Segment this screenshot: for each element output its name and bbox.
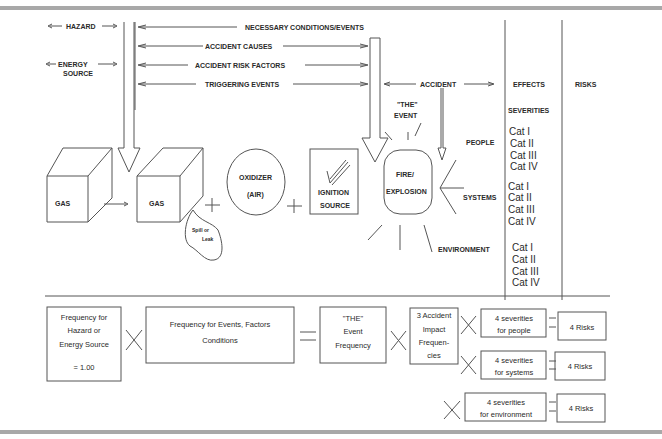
people-cat-1: Cat I [509, 126, 530, 137]
ignition-label-1: IGNITION [318, 189, 349, 196]
events-frequency-box [146, 307, 294, 363]
causes-label: ACCIDENT CAUSES [205, 43, 273, 50]
hazard-freq-line-3: Energy Source [59, 340, 109, 349]
sev-systems-line-1: 4 severities [495, 356, 533, 365]
sev-env-line-2: for environment [480, 410, 533, 419]
impact-freq-line-2: Impact [423, 325, 446, 334]
oxidizer-label-2: (AIR) [247, 191, 264, 199]
ignition-label-2: SOURCE [320, 202, 350, 209]
equals-environment [549, 402, 556, 411]
environment-label: ENVIRONMENT [438, 246, 490, 253]
multiply-sign-5 [444, 401, 460, 419]
energy-label-1: ENERGY [58, 61, 88, 68]
hazard-freq-line-2: Hazard or [68, 326, 101, 335]
bottom-border [0, 430, 662, 434]
the-event-label-2: EVENT [394, 112, 418, 119]
multiply-sign-1 [126, 330, 142, 350]
gas2-label: GAS [149, 200, 165, 207]
hazard-down-arrow [118, 22, 140, 172]
sev-env-line-1: 4 severities [487, 398, 525, 407]
events-freq-line-2: Conditions [202, 336, 238, 345]
effect-arrows [440, 160, 464, 214]
environment-cat-3: Cat III [512, 266, 539, 277]
people-cat-2: Cat II [510, 138, 534, 149]
systems-cat-1: Cat I [508, 181, 529, 192]
spill-label-2: Leak [202, 236, 214, 242]
triggering-right-arrow [293, 82, 368, 86]
hazard-left-arrow [48, 24, 62, 28]
risks-environment-label: 4 Risks [569, 404, 594, 413]
fire-label-2: EXPLOSION [386, 188, 427, 195]
multiply-sign-2 [391, 331, 406, 350]
event-freq-line-3: Frequency [335, 341, 371, 350]
sev-systems-line-2: for systems [495, 368, 534, 377]
environment-cat-2: Cat II [512, 254, 536, 265]
risks-systems-label: 4 Risks [568, 362, 593, 371]
events-freq-line-1: Frequency for Events, Factors [170, 320, 271, 329]
people-cat-4: Cat IV [510, 161, 538, 172]
systems-cat-4: Cat IV [508, 216, 536, 227]
equals-sign [300, 332, 316, 340]
multiply-sign-3 [461, 316, 476, 334]
causes-left-arrow [138, 44, 203, 48]
equals-people [549, 318, 556, 327]
necessary-label: NECESSARY CONDITIONS/EVENTS [245, 24, 364, 31]
plus-sign-2 [287, 199, 302, 213]
systems-label: SYSTEMS [463, 194, 497, 201]
fire-label-1: FIRE/ [396, 171, 414, 178]
spill-label-1: Spill or [192, 227, 209, 233]
hazard-right-arrow [102, 24, 117, 28]
risk-factors-left-arrow [138, 63, 188, 67]
risk-factors-label: ACCIDENT RISK FACTORS [195, 62, 285, 69]
risks-label: RISKS [575, 81, 597, 88]
triggering-label: TRIGGERING EVENTS [205, 81, 280, 88]
hazard-freq-line-4: = 1.00 [73, 363, 94, 372]
necessary-left-arrow [138, 25, 237, 29]
systems-cat-2: Cat II [508, 192, 532, 203]
sev-people-line-2: for people [497, 326, 530, 335]
fire-explosion-box [384, 150, 432, 214]
risk-diagram: HAZARD ENERGY SOURCE NECESSARY CONDITION… [0, 0, 662, 439]
accident-left-arrow [384, 82, 416, 86]
impact-freq-line-4: cies [427, 351, 441, 360]
severities-label: SEVERITIES [508, 107, 550, 114]
accident-down-arrow [438, 88, 446, 160]
event-freq-line-1: "THE" [343, 314, 364, 323]
energy-left-arrow [46, 62, 56, 66]
people-label: PEOPLE [466, 139, 495, 146]
accident-label: ACCIDENT [420, 81, 457, 88]
hazard-label: HAZARD [66, 23, 96, 30]
the-event-label-1: "THE" [397, 101, 418, 108]
energy-label-2: SOURCE [63, 70, 93, 77]
sev-people-line-1: 4 severities [495, 314, 533, 323]
conditions-down-arrow [362, 38, 388, 162]
gas-container-1 [47, 148, 112, 222]
environment-cat-4: Cat IV [512, 277, 540, 288]
effects-label: EFFECTS [513, 81, 545, 88]
oxidizer-label-1: OXIDIZER [239, 174, 272, 181]
hazard-freq-line-1: Frequency for [61, 313, 108, 322]
gas1-label: GAS [55, 200, 71, 207]
environment-cat-1: Cat I [512, 242, 533, 253]
match-icon [327, 160, 350, 185]
event-freq-line-2: Event [343, 327, 363, 336]
top-border [0, 6, 662, 10]
risk-factors-right-arrow [305, 63, 368, 67]
accident-right-arrow [464, 82, 494, 86]
oxidizer-circle [227, 149, 285, 215]
risks-people-label: 4 Risks [570, 323, 595, 332]
triggering-left-arrow [138, 82, 196, 86]
multiply-sign-4 [461, 356, 476, 374]
impact-freq-line-1: 3 Accident [417, 311, 453, 320]
plus-sign-1 [205, 198, 220, 212]
severity-list: Cat I Cat II Cat III Cat IV Cat I Cat II… [508, 126, 540, 288]
people-cat-3: Cat III [510, 150, 537, 161]
energy-right-arrow [98, 62, 117, 66]
systems-cat-3: Cat III [508, 204, 535, 215]
impact-freq-line-3: Frequen- [419, 338, 450, 347]
causes-right-arrow [283, 44, 368, 48]
